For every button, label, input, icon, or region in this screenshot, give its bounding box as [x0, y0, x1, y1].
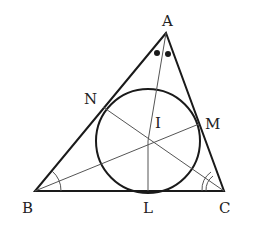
label-m: M [205, 115, 220, 133]
angle-b-arc [52, 171, 61, 191]
incircle-diagram: A B C I L M N [0, 0, 254, 229]
triangle-abc [35, 33, 224, 191]
diagram-canvas: A B C I L M N [0, 0, 254, 229]
angle-c-arc-1 [206, 176, 213, 191]
label-l: L [143, 199, 153, 217]
label-a: A [161, 12, 173, 30]
label-i: I [155, 114, 161, 132]
label-c: C [219, 199, 230, 217]
angle-a-dot-1 [154, 50, 160, 56]
label-b: B [22, 199, 33, 217]
angle-a-dot-2 [165, 51, 171, 57]
label-n: N [84, 90, 97, 108]
